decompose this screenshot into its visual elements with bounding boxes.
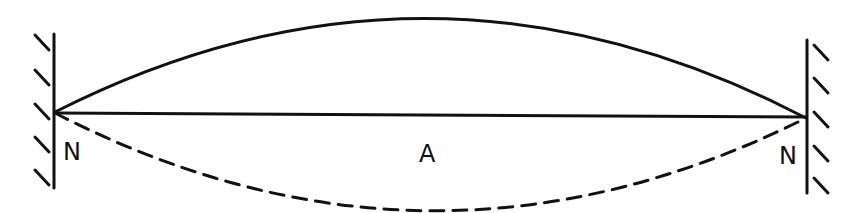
right-wall-hatching [814,45,828,193]
standing-wave-diagram [0,0,863,213]
node-left-label: N [63,140,81,164]
wave-upper [55,18,806,118]
equilibrium-line [55,113,806,117]
left-wall-hatching [35,35,49,185]
node-right-label: N [779,144,797,168]
antinode-label: A [419,142,435,166]
